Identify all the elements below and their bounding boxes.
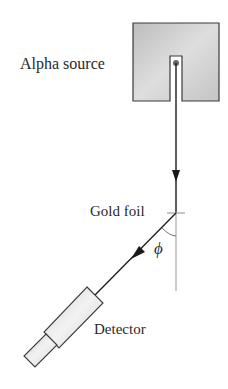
- angle-phi-label: ϕ: [154, 240, 163, 257]
- angle-arc: [162, 228, 176, 236]
- arrow-down-icon: [172, 170, 180, 182]
- detector-label: Detector: [94, 322, 146, 337]
- gold-foil-label: Gold foil: [90, 204, 145, 219]
- arrow-down-left-icon: [131, 246, 145, 259]
- alpha-source-label: Alpha source: [20, 56, 105, 72]
- detector-body: [44, 287, 103, 348]
- detector: [24, 287, 103, 367]
- incident-beam: [172, 63, 180, 213]
- scattered-beam: [95, 213, 176, 295]
